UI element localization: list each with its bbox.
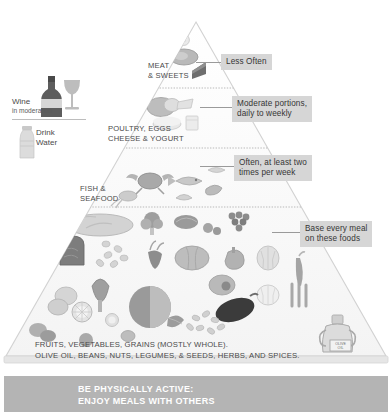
tier-label-meat-sweets: MEAT & SWEETS: [148, 61, 189, 80]
infographic-canvas: OLIVE OIL: [0, 0, 392, 420]
svg-text:OIL: OIL: [338, 346, 344, 350]
wine-sublabel: in moderation: [12, 106, 52, 116]
wine-glass-icon: [64, 80, 80, 109]
milk-carton-icon: [186, 116, 198, 130]
water-bottle-icon: [20, 126, 34, 158]
tier-label-poultry: POULTRY, EGGS CHEESE & YOGURT: [108, 124, 184, 143]
avocado-icon: [209, 275, 235, 295]
callout-moderate-portions: Moderate portions, daily to weekly: [232, 96, 312, 122]
leader-line-moderate-portions: [200, 107, 233, 108]
lemon-slice-icon: [72, 302, 92, 322]
leafy-greens-icon: [174, 215, 198, 229]
eggs-icon: [132, 98, 143, 113]
bread-loaf-icon: [67, 214, 133, 236]
callout-often: Often, at least two times per week: [234, 155, 312, 181]
callout-less-often: Less Often: [221, 54, 272, 70]
garlic-icon: [257, 246, 279, 270]
leader-line-often: [200, 166, 235, 167]
mushroom-icon: [106, 314, 119, 327]
tomato-icon: [129, 286, 171, 328]
footer-text: BE PHYSICALLY ACTIVE: ENJOY MEALS WITH O…: [78, 384, 215, 407]
beverage-divider: [12, 119, 86, 120]
callout-base-every-meal: Base every meal on these foods: [300, 221, 372, 247]
leader-line-base-every-meal: [272, 232, 301, 233]
bread-slice-icon: [60, 236, 84, 265]
pumpkin-icon: [175, 246, 209, 270]
water-label: Drink Water: [36, 128, 57, 147]
tier-label-base-foods: FRUITS, VEGETABLES, GRAINS (MOSTLY WHOLE…: [35, 340, 299, 361]
leader-line-less-often: [196, 62, 222, 63]
tier-label-fish-seafood: FISH & SEAFOOD: [80, 184, 119, 203]
onion-icon: [257, 285, 279, 305]
